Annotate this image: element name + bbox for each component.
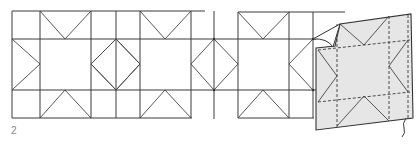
diamond-2-bottom-dot [213, 89, 215, 91]
diamond-3 [289, 38, 314, 91]
star-block-2 [140, 11, 191, 118]
diamond-1-right [116, 39, 140, 90]
star-block-3 [238, 12, 289, 118]
vertical-grid-lines [12, 11, 313, 119]
figure-number: 2 [11, 126, 17, 136]
folded-panel [313, 14, 413, 137]
thread [402, 118, 406, 137]
star-block-1 [12, 11, 116, 118]
diamond-2-top-dot [213, 38, 215, 40]
horizontal-grid-lines [12, 11, 345, 118]
quilt-block-diagram [0, 0, 419, 151]
